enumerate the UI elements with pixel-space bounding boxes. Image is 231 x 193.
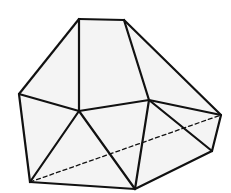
- polyhedron-diagram: [0, 0, 231, 193]
- edge-ab: [79, 19, 124, 20]
